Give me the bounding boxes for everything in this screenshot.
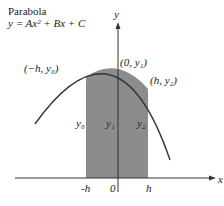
title-line1: Parabola xyxy=(8,5,46,17)
point-right-label: (h, y₂) xyxy=(150,74,177,86)
tick-neg-h: -h xyxy=(81,182,90,194)
x-axis-label: x xyxy=(218,173,223,185)
title-equation: y = Ax² + Bx + C xyxy=(8,17,85,29)
y-axis-label: y xyxy=(114,8,119,20)
height-left-label: y₀ xyxy=(76,117,85,129)
height-center-label: y₁ xyxy=(106,117,115,129)
parabola-diagram xyxy=(0,0,224,206)
height-right-label: y₂ xyxy=(137,117,146,129)
tick-zero: 0 xyxy=(110,182,116,194)
tick-h: h xyxy=(146,182,152,194)
y-axis-arrow-icon xyxy=(116,22,121,29)
point-left-label: (−h, y₀) xyxy=(24,62,58,74)
point-center-label: (0, y₁) xyxy=(120,56,147,68)
x-axis-arrow-icon xyxy=(209,176,216,181)
